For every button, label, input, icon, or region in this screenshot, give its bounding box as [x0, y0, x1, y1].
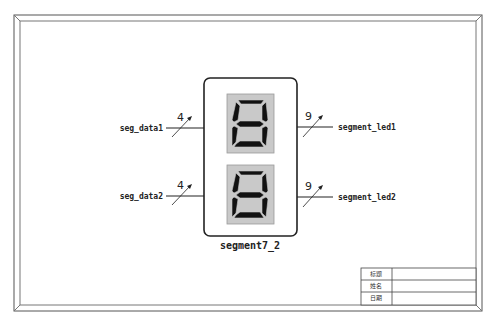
seven-segment-display-1	[227, 94, 274, 153]
input-port-seg-data2[interactable]: 4 seg_data2	[120, 179, 204, 205]
title-block-label-title: 标题	[370, 270, 382, 278]
signal-label-segment-led2: segment_led2	[338, 193, 396, 202]
bus-width-seg-data1: 4	[177, 111, 184, 124]
bus-width-seg-data2: 4	[177, 179, 184, 192]
title-block-label-name: 姓名	[370, 282, 382, 290]
seven-segment-display-2	[227, 165, 274, 224]
signal-label-seg-data1: seg_data1	[120, 124, 164, 133]
signal-label-seg-data2: seg_data2	[120, 192, 164, 201]
title-block: 标题 姓名 日期	[361, 268, 476, 305]
bus-width-segment-led2: 9	[305, 180, 312, 193]
segment7-2-component[interactable]: segment7_2	[204, 78, 297, 252]
output-port-segment-led2[interactable]: 9 segment_led2	[297, 180, 396, 207]
input-port-seg-data1[interactable]: 4 seg_data1	[120, 111, 204, 137]
output-port-segment-led1[interactable]: 9 segment_led1	[297, 110, 396, 137]
signal-label-segment-led1: segment_led1	[338, 123, 396, 132]
title-block-label-date: 日期	[370, 294, 382, 302]
bus-width-segment-led1: 9	[305, 110, 312, 123]
component-name-label: segment7_2	[220, 240, 280, 252]
